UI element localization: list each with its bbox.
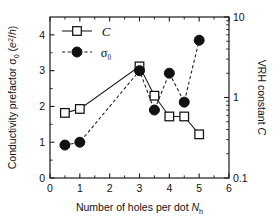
data-point-sigma_0[interactable] [75,137,85,147]
y-right-tick-label-10: 10 [233,11,245,23]
y-axis-left-title: Conductivity prefactor σ0 (e2/h) [6,26,21,169]
y-axis-right-title: VRH constant C [256,60,268,136]
x-tick-label-2: 2 [107,182,113,194]
data-point-C[interactable] [150,91,159,100]
y-left-tick-label-4: 4 [39,29,45,41]
series-line-C [65,66,199,134]
data-point-sigma_0[interactable] [135,66,145,76]
data-point-C[interactable] [61,109,70,118]
chart-figure: 0123456012340.1110Cσ0Number of holes per… [0,0,274,216]
y-left-tick-label-0: 0 [39,172,45,184]
x-tick-label-4: 4 [166,182,172,194]
legend-label-c: C [102,24,111,39]
data-point-sigma_0[interactable] [179,97,189,107]
legend-marker-c [73,27,82,36]
data-point-sigma_0[interactable] [60,140,70,150]
y-right-tick-label-0.1: 0.1 [233,172,248,184]
data-point-sigma_0[interactable] [194,35,204,45]
series-line-sigma_0 [65,40,199,145]
data-point-C[interactable] [76,105,85,114]
y-left-tick-label-3: 3 [39,64,45,76]
x-tick-label-0: 0 [47,182,53,194]
legend-label-sigma: σ0 [101,46,112,62]
x-tick-label-1: 1 [77,182,83,194]
data-point-C[interactable] [180,112,189,121]
x-tick-label-6: 6 [226,182,232,194]
data-point-C[interactable] [195,130,204,139]
data-point-sigma_0[interactable] [164,68,174,78]
y-right-tick-label-1: 1 [233,91,239,103]
x-axis-title: Number of holes per dot Nh [76,201,203,216]
x-tick-label-3: 3 [137,182,143,194]
y-left-tick-label-2: 2 [39,100,45,112]
data-point-C[interactable] [165,112,174,121]
legend-marker-sigma [72,47,82,57]
conductivity-prefactor-chart: 0123456012340.1110Cσ0Number of holes per… [0,0,274,216]
y-left-tick-label-1: 1 [39,136,45,148]
data-point-sigma_0[interactable] [149,105,159,115]
x-tick-label-5: 5 [196,182,202,194]
